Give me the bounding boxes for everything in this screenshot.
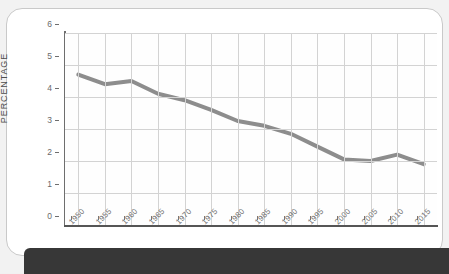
gridline-vertical (397, 33, 398, 225)
gridline-vertical (238, 33, 239, 225)
gridline-vertical (158, 33, 159, 225)
gridline-vertical (264, 33, 265, 225)
gridline-vertical (105, 33, 106, 225)
x-axis-line (64, 225, 438, 227)
y-axis-tick-mark (55, 152, 59, 153)
gridline-vertical (131, 33, 132, 225)
y-axis-tick-mark (55, 216, 59, 217)
gridline-vertical (291, 33, 292, 225)
gridline-horizontal (65, 97, 437, 98)
footer-bar (24, 248, 449, 274)
gridline-vertical (317, 33, 318, 225)
y-axis-tick-label: 3 (36, 116, 52, 125)
plot-area (65, 33, 437, 225)
y-axis-tick-label: 1 (36, 180, 52, 189)
series-polyline (78, 75, 423, 165)
y-axis-title: PERCENTAGE (0, 53, 9, 123)
gridline-vertical (78, 33, 79, 225)
y-axis-tick-mark (55, 184, 59, 185)
y-axis-tick-label: 4 (36, 84, 52, 93)
y-axis-tick-label: 2 (36, 148, 52, 157)
y-axis-tick-label: 5 (36, 52, 52, 61)
y-axis-tick-mark (55, 56, 59, 57)
gridline-horizontal (65, 193, 437, 194)
gridline-vertical (371, 33, 372, 225)
gridline-horizontal (65, 129, 437, 130)
gridline-vertical (344, 33, 345, 225)
gridline-horizontal (65, 161, 437, 162)
y-axis-tick-mark (55, 88, 59, 89)
gridline-horizontal (65, 65, 437, 66)
gridline-horizontal (65, 33, 437, 34)
y-axis-tick-label: 6 (36, 20, 52, 29)
gridline-vertical (211, 33, 212, 225)
gridline-vertical (185, 33, 186, 225)
y-axis-tick-mark (55, 24, 59, 25)
y-axis-tick-mark (55, 120, 59, 121)
y-axis-tick-label: 0 (36, 212, 52, 221)
gridline-vertical (424, 33, 425, 225)
